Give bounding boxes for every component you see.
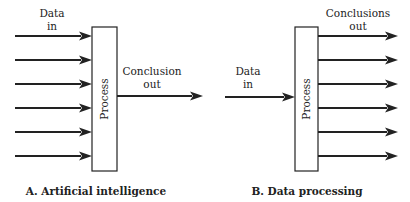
panel-b-output-arrow [318, 80, 398, 89]
panel-a-output-arrows [117, 92, 203, 101]
diagram-canvas: Data in Process Conclusion out A. Artifi… [0, 0, 410, 202]
panel-a-caption: A. Artificial intelligence [25, 185, 167, 197]
panel-a-input-arrow [15, 128, 92, 137]
panel-a-input-arrows [15, 32, 92, 161]
panel-b-output-arrow [318, 104, 398, 113]
panel-a-input-arrow [15, 56, 92, 65]
panel-a-process-label: Process [98, 78, 110, 119]
panel-b-output-arrow [318, 32, 398, 41]
panel-b-output-arrow [318, 128, 398, 137]
panel-b-input-arrows [225, 93, 295, 102]
panel-a-output-label-line2: out [143, 78, 161, 90]
panel-a-input-arrow [15, 104, 92, 113]
panel-a-input-label-line1: Data [39, 7, 64, 19]
panel-a-input-label-line2: in [47, 20, 57, 32]
panel-b-output-arrow [318, 56, 398, 65]
panel-a-output-label-line1: Conclusion [123, 65, 182, 77]
panel-a-input-arrow [15, 80, 92, 89]
panel-a-input-arrow [15, 32, 92, 41]
panel-a: Data in Process Conclusion out A. Artifi… [15, 7, 203, 197]
panel-b-input-arrow [225, 93, 295, 102]
panel-b-output-label-line1: Conclusions [326, 7, 390, 19]
panel-b-output-arrow [318, 152, 398, 161]
panel-b-process-label: Process [300, 78, 312, 119]
panel-b-input-label-line1: Data [235, 65, 260, 77]
panel-b-caption: B. Data processing [251, 185, 363, 197]
panel-b: Data in Process Conclusions out B. Data … [225, 7, 398, 197]
panel-b-input-label-line2: in [243, 78, 253, 90]
panel-a-input-arrow [15, 152, 92, 161]
panel-b-output-label-line2: out [349, 20, 367, 32]
panel-b-output-arrows [318, 32, 398, 161]
panel-a-output-arrow [117, 92, 203, 101]
